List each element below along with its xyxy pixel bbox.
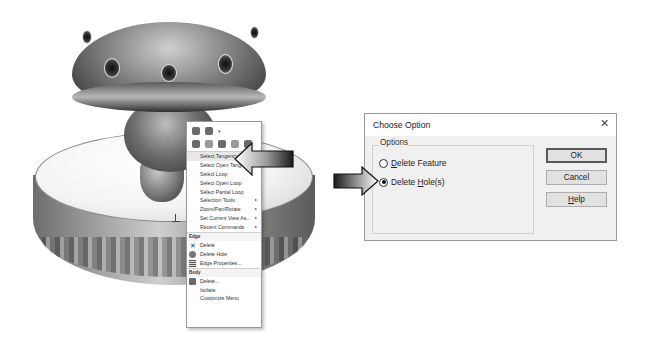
menu-item-zoom-pan-rotate[interactable]: Zoom/Pan/Rotate▸ — [187, 205, 261, 214]
choose-option-dialog: Choose Option ✕ Options Delete Feature D… — [364, 113, 617, 241]
menu-item-label: Customize Menu — [200, 295, 239, 301]
hide-icon[interactable] — [205, 140, 213, 148]
radio-label: Delete Feature — [391, 158, 446, 168]
submenu-arrow-icon: ▸ — [255, 205, 257, 214]
edge-properties-icon — [189, 260, 196, 267]
radio-delete-feature[interactable]: Delete Feature — [379, 158, 446, 168]
radio-button-unchecked[interactable] — [379, 159, 388, 168]
submenu-arrow-icon: ▸ — [255, 214, 257, 223]
radio-button-checked[interactable] — [379, 178, 388, 187]
delete-x-icon: ✕ — [189, 242, 196, 249]
radio-delete-holes[interactable]: Delete Hole(s) — [379, 177, 445, 187]
radio-label: Delete Hole(s) — [391, 177, 445, 187]
menu-item-select-partial-loop[interactable]: Select Partial Loop — [187, 188, 261, 197]
cap-hole — [82, 30, 92, 44]
menu-item-label: Select Tangency — [200, 153, 238, 159]
menu-item-delete-body[interactable]: Delete... — [187, 277, 261, 286]
selection-icon[interactable] — [192, 127, 200, 135]
delete-body-icon — [189, 278, 196, 285]
menu-item-label: Edge Properties... — [200, 260, 242, 266]
submenu-arrow-icon: ▸ — [255, 196, 257, 205]
menu-item-label: Select Partial Loop — [200, 189, 244, 195]
cap-hole — [161, 64, 177, 82]
menu-section-body: Body — [187, 269, 261, 277]
menu-item-label: Zoom/Pan/Rotate — [200, 206, 241, 212]
menu-item-label: Select Loop — [200, 171, 227, 177]
callout-arrow-right-icon — [333, 166, 379, 196]
cancel-button[interactable]: Cancel — [546, 170, 607, 185]
menu-section-edge: Edge — [187, 233, 261, 241]
menu-item-set-current-view[interactable]: Set Current View As...▸ — [187, 214, 261, 223]
menu-item-label: Isolate — [200, 287, 215, 293]
help-button[interactable]: Help — [546, 192, 607, 207]
chevron-down-icon[interactable]: ▾ — [218, 128, 221, 134]
sketch-icon[interactable] — [218, 140, 226, 148]
delete-hole-icon — [189, 251, 196, 258]
menu-item-select-open-loop[interactable]: Select Open Loop — [187, 179, 261, 188]
menu-item-selection-tools[interactable]: Selection Tools▸ — [187, 196, 261, 205]
menu-item-recent-commands[interactable]: Recent Commands▸ — [187, 223, 261, 232]
menu-item-delete[interactable]: ✕Delete — [187, 241, 261, 250]
knob-cap-rim — [72, 82, 266, 112]
menu-item-label: Delete — [200, 242, 215, 248]
menu-item-label: Delete Hole — [200, 251, 227, 257]
menu-item-label: Recent Commands — [200, 224, 244, 230]
view-icon[interactable] — [192, 140, 200, 148]
menu-item-label: Selection Tools — [200, 197, 235, 203]
menu-item-label: Select Open Loop — [200, 180, 242, 186]
ok-button[interactable]: OK — [546, 148, 607, 163]
options-group-label: Options — [379, 138, 409, 147]
dialog-title: Choose Option — [373, 120, 430, 130]
cap-hole — [104, 58, 120, 78]
close-icon[interactable]: ✕ — [600, 118, 609, 129]
menu-item-delete-hole[interactable]: Delete Hole — [187, 250, 261, 259]
origin-icon — [172, 214, 180, 222]
menu-item-label: Set Current View As... — [200, 215, 251, 221]
menu-item-edge-properties[interactable]: Edge Properties... — [187, 259, 261, 268]
menu-item-customize-menu[interactable]: Customize Menu — [187, 294, 261, 303]
submenu-arrow-icon: ▸ — [255, 223, 257, 232]
menu-item-label: Delete... — [200, 278, 219, 284]
cap-hole — [250, 26, 259, 39]
dialog-titlebar: Choose Option ✕ — [365, 114, 616, 136]
menu-item-isolate[interactable]: Isolate — [187, 286, 261, 295]
callout-arrow-left-icon — [234, 142, 294, 176]
cap-hole — [218, 54, 233, 74]
appearance-icon[interactable] — [205, 127, 213, 135]
